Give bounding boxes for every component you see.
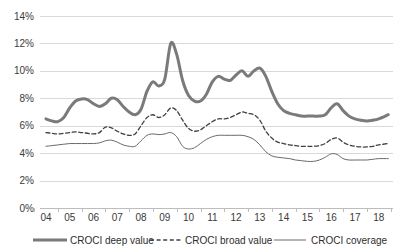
y-axis-tick-label: 14%	[14, 11, 34, 22]
y-axis-labels: 0%2%4%6%8%10%12%14%	[14, 11, 34, 214]
x-axis-tick-label: 18	[373, 212, 385, 223]
x-axis-tick-label: 05	[64, 212, 76, 223]
y-axis-tick-label: 6%	[20, 120, 35, 131]
y-axis-tick-label: 4%	[20, 148, 35, 159]
y-axis-tick-label: 12%	[14, 38, 34, 49]
x-axis-tick-label: 13	[254, 212, 266, 223]
gridlines	[40, 17, 393, 209]
plot-series	[46, 42, 388, 161]
x-axis-tick-label: 08	[135, 212, 147, 223]
x-axis-tick-label: 17	[349, 212, 361, 223]
line-chart: 0%2%4%6%8%10%12%14% 04050607080910111213…	[0, 0, 400, 252]
x-axis-tick-label: 10	[183, 212, 195, 223]
x-axis-tick-label: 09	[159, 212, 171, 223]
x-axis-tick-label: 15	[302, 212, 314, 223]
y-axis-tick-label: 10%	[14, 65, 34, 76]
y-axis-tick-label: 0%	[20, 203, 35, 214]
x-axis-tick-label: 06	[88, 212, 100, 223]
legend-label-3: CROCI coverage	[311, 235, 388, 246]
x-axis-tick-label: 12	[231, 212, 243, 223]
legend-label-1: CROCI deep value	[70, 235, 154, 246]
x-axis-tick-label: 11	[207, 212, 218, 223]
series-line-1	[46, 42, 388, 121]
legend-label-2: CROCI broad value	[185, 235, 273, 246]
x-axis-labels: 040506070809101112131415161718	[40, 212, 384, 223]
x-axis-tick-label: 04	[40, 212, 52, 223]
x-axis-tick-label: 16	[326, 212, 338, 223]
series-line-3	[46, 132, 388, 161]
y-axis-tick-label: 2%	[20, 175, 35, 186]
x-axis-tick-label: 14	[278, 212, 290, 223]
chart-legend: CROCI deep valueCROCI broad valueCROCI c…	[33, 235, 388, 246]
x-axis-tick-label: 07	[112, 212, 124, 223]
y-axis-tick-label: 8%	[20, 93, 35, 104]
series-line-2	[46, 108, 388, 147]
chart-container: 0%2%4%6%8%10%12%14% 04050607080910111213…	[0, 0, 400, 252]
